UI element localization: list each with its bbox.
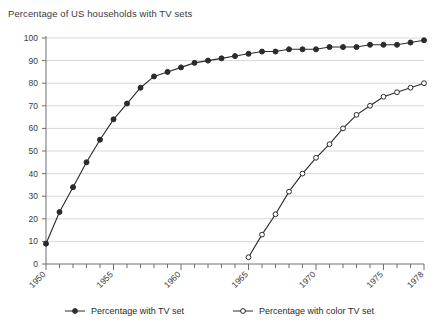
chart-plot-area: 0102030405060708090100 19501955196019651… bbox=[0, 0, 438, 300]
data-point-color-tv-set bbox=[314, 155, 319, 160]
y-tick-label: 100 bbox=[24, 33, 38, 43]
data-point-tv-set bbox=[84, 160, 89, 165]
y-tick-label: 60 bbox=[29, 123, 39, 133]
legend-label-tv-set: Percentage with TV set bbox=[91, 306, 184, 316]
chart-container: Percentage of US households with TV sets… bbox=[0, 0, 438, 335]
data-point-color-tv-set bbox=[246, 255, 251, 260]
y-tick-label: 10 bbox=[29, 236, 39, 246]
data-point-tv-set bbox=[44, 241, 49, 246]
data-point-tv-set bbox=[300, 47, 305, 52]
data-point-tv-set bbox=[395, 42, 400, 47]
data-point-color-tv-set bbox=[354, 112, 359, 117]
y-tick-label: 80 bbox=[29, 78, 39, 88]
gridlines-group bbox=[42, 38, 424, 264]
y-tick-label: 90 bbox=[29, 56, 39, 66]
data-point-color-tv-set bbox=[341, 126, 346, 131]
data-point-tv-set bbox=[260, 49, 265, 54]
data-point-color-tv-set bbox=[381, 94, 386, 99]
data-point-color-tv-set bbox=[273, 212, 278, 217]
data-point-color-tv-set bbox=[260, 232, 265, 237]
chart-legend: Percentage with TV set Percentage with c… bbox=[0, 306, 438, 316]
x-axis-group bbox=[46, 36, 424, 270]
x-tick-label: 1978 bbox=[405, 269, 426, 290]
y-tick-label: 70 bbox=[29, 101, 39, 111]
legend-item-color-tv-set: Percentage with color TV set bbox=[232, 306, 374, 316]
data-point-tv-set bbox=[111, 117, 116, 122]
data-point-tv-set bbox=[381, 42, 386, 47]
data-point-tv-set bbox=[341, 45, 346, 50]
data-point-tv-set bbox=[192, 60, 197, 65]
data-point-color-tv-set bbox=[287, 189, 292, 194]
data-point-color-tv-set bbox=[408, 85, 413, 90]
data-point-color-tv-set bbox=[422, 81, 427, 86]
x-tick-label: 1960 bbox=[162, 269, 183, 290]
data-point-tv-set bbox=[368, 42, 373, 47]
y-tick-label: 50 bbox=[29, 146, 39, 156]
data-point-tv-set bbox=[206, 58, 211, 63]
data-point-tv-set bbox=[314, 47, 319, 52]
legend-item-tv-set: Percentage with TV set bbox=[64, 306, 184, 316]
data-point-tv-set bbox=[354, 45, 359, 50]
data-point-tv-set bbox=[273, 49, 278, 54]
data-point-color-tv-set bbox=[300, 171, 305, 176]
data-point-tv-set bbox=[219, 56, 224, 61]
data-point-color-tv-set bbox=[395, 90, 400, 95]
x-axis-tick-labels: 1950195519601965197019751978 bbox=[27, 269, 426, 290]
data-series-group bbox=[44, 38, 427, 260]
legend-label-color-tv-set: Percentage with color TV set bbox=[259, 306, 374, 316]
open-circle-icon bbox=[232, 306, 254, 316]
data-point-tv-set bbox=[246, 51, 251, 56]
data-point-tv-set bbox=[408, 40, 413, 45]
data-point-tv-set bbox=[138, 85, 143, 90]
x-tick-label: 1950 bbox=[27, 269, 48, 290]
data-point-color-tv-set bbox=[368, 103, 373, 108]
data-point-tv-set bbox=[57, 210, 62, 215]
data-point-tv-set bbox=[233, 54, 238, 59]
x-tick-label: 1965 bbox=[229, 269, 250, 290]
series-line-tv-set bbox=[46, 40, 424, 243]
data-point-color-tv-set bbox=[327, 142, 332, 147]
data-point-tv-set bbox=[71, 185, 76, 190]
data-point-tv-set bbox=[165, 69, 170, 74]
y-tick-label: 30 bbox=[29, 191, 39, 201]
y-tick-label: 0 bbox=[33, 259, 38, 269]
filled-circle-icon bbox=[64, 306, 86, 316]
data-point-tv-set bbox=[287, 47, 292, 52]
x-tick-label: 1955 bbox=[94, 269, 115, 290]
data-point-tv-set bbox=[422, 38, 427, 43]
x-tick-label: 1970 bbox=[297, 269, 318, 290]
data-point-tv-set bbox=[152, 74, 157, 79]
data-point-tv-set bbox=[327, 45, 332, 50]
series-line-color-tv-set bbox=[249, 83, 425, 257]
x-tick-label: 1975 bbox=[364, 269, 385, 290]
data-point-tv-set bbox=[179, 65, 184, 70]
data-point-tv-set bbox=[98, 137, 103, 142]
data-point-tv-set bbox=[125, 101, 130, 106]
y-axis-tick-labels: 0102030405060708090100 bbox=[24, 33, 38, 269]
y-tick-label: 40 bbox=[29, 169, 39, 179]
y-tick-label: 20 bbox=[29, 214, 39, 224]
